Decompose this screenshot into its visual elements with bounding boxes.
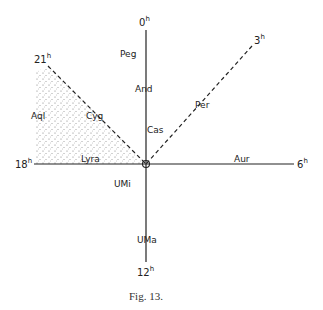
label-aql: Aql [31, 111, 45, 121]
hour-label-21h: 21h [34, 52, 51, 65]
label-aur: Aur [234, 154, 250, 164]
label-peg: Peg [120, 49, 136, 59]
label-uma: UMa [137, 235, 157, 245]
label-per: Per [195, 100, 210, 110]
label-and: And [135, 84, 153, 94]
label-lyra: Lyra [81, 154, 100, 164]
figure-caption: Fig. 13. [129, 290, 163, 302]
label-cas: Cas [147, 125, 164, 135]
hour-label-3h: 3h [254, 33, 265, 46]
hour-label-12h: 12h [137, 265, 154, 278]
hour-label-0h: 0h [139, 15, 150, 28]
star-chart-diagram: 0h 3h 6h 12h 18h 21h Peg And Cas Per Aur… [0, 0, 323, 310]
label-cyg: Cyg [86, 111, 103, 121]
hour-label-18h: 18h [15, 157, 32, 170]
label-umi: UMi [114, 179, 131, 189]
hour-label-6h: 6h [297, 157, 308, 170]
